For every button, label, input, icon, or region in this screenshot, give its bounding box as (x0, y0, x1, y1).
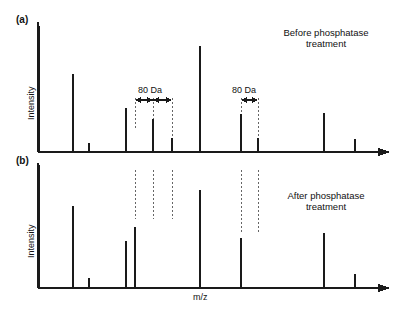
panel-a-caption-line2: treatment (256, 38, 396, 49)
panel-label-b: (b) (16, 155, 29, 166)
annotation-80da-1-label: 80 Da (138, 85, 162, 95)
panel-a-x-axis-arrowhead (378, 148, 390, 156)
arrow-head-mid-l (147, 97, 153, 103)
panel-b-group (38, 163, 390, 292)
arrow-head-mid-r (153, 97, 159, 103)
panel-b-caption: After phosphatase treatment (256, 190, 396, 212)
panel-b-caption-line1: After phosphatase (256, 190, 396, 201)
arrow-head-right (252, 97, 258, 103)
panel-b-peaks (39, 165, 355, 288)
panel-b-x-axis-label: m/z (193, 292, 208, 302)
panel-a-y-axis-label: Intensity (26, 86, 36, 120)
panel-a-caption-line1: Before phosphatase (256, 27, 396, 38)
annotation-80da-2-label: 80 Da (232, 85, 256, 95)
panel-label-a: (a) (16, 14, 28, 25)
arrow-head-right (166, 97, 172, 103)
panel-b-y-axis-label: Intensity (26, 224, 36, 258)
mass-spectrum-figure: (a) Intensity Before phosphatase treatme… (0, 0, 400, 314)
arrow-head-left (135, 97, 141, 103)
arrow-head-left (241, 97, 247, 103)
panel-b-x-axis-arrowhead (378, 284, 390, 292)
panel-b-guides (135, 170, 258, 234)
panel-a-caption: Before phosphatase treatment (256, 27, 396, 49)
panel-b-caption-line2: treatment (256, 201, 396, 212)
